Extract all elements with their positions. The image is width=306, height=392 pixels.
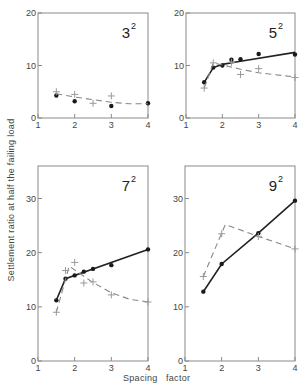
data-point-cross — [53, 309, 60, 316]
panel-3x3: 12340102032 — [26, 8, 151, 130]
panel-label-exponent: 2 — [131, 21, 136, 31]
data-point-cross — [292, 74, 299, 81]
x-axis-title-left: Spacing — [123, 373, 158, 383]
plot-frame — [185, 166, 295, 361]
x-tick-label: 4 — [292, 363, 297, 373]
x-tick-label: 2 — [219, 363, 224, 373]
solid-trend-line — [203, 201, 295, 292]
data-point-cross — [108, 291, 115, 298]
x-axis-title-right: factor — [166, 373, 190, 383]
dashed-trend-line — [56, 94, 148, 104]
panel-9x9: 1234010203092 — [173, 166, 299, 373]
panel-label-exponent: 2 — [278, 174, 283, 184]
data-point-dot — [293, 52, 297, 56]
y-tick-label: 20 — [173, 248, 183, 258]
data-point-cross — [201, 85, 208, 92]
data-point-dot — [220, 63, 224, 67]
y-tick-label: 0 — [179, 113, 184, 123]
dashed-trend-line — [203, 225, 295, 277]
y-axis-title: Settlement ratio at half the failing loa… — [6, 119, 16, 282]
data-point-cross — [228, 59, 235, 66]
x-tick-label: 1 — [183, 120, 188, 130]
data-point-dot — [54, 298, 58, 302]
panel-5x5: 12340102052 — [174, 8, 299, 130]
y-tick-label: 10 — [173, 302, 183, 312]
data-point-cross — [255, 65, 262, 72]
data-point-cross — [200, 273, 207, 280]
y-tick-label: 20 — [26, 248, 36, 258]
panel-7x7: 1234010203072 — [26, 166, 152, 373]
panel-label: 9 — [269, 177, 277, 194]
data-point-cross — [90, 100, 97, 107]
x-tick-label: 3 — [109, 120, 114, 130]
y-tick-label: 10 — [26, 61, 36, 71]
solid-trend-line — [204, 52, 295, 82]
data-point-cross — [62, 267, 69, 274]
x-tick-label: 2 — [220, 120, 225, 130]
y-tick-label: 10 — [174, 61, 184, 71]
plot-frame — [38, 166, 148, 361]
x-tick-label: 4 — [145, 120, 150, 130]
data-point-dot — [72, 99, 76, 103]
panel-label-exponent: 2 — [131, 174, 136, 184]
panel-label-exponent: 2 — [278, 21, 283, 31]
x-tick-label: 1 — [35, 120, 40, 130]
y-tick-label: 0 — [31, 113, 36, 123]
data-point-cross — [108, 92, 115, 99]
y-tick-label: 10 — [26, 302, 36, 312]
data-point-cross — [90, 278, 97, 285]
data-point-cross — [210, 59, 217, 66]
x-tick-label: 2 — [72, 363, 77, 373]
chart-figure: 1234010203212340102052123401020307212340… — [0, 0, 306, 392]
data-point-dot — [109, 104, 113, 108]
data-point-dot — [293, 198, 297, 202]
data-point-dot — [72, 273, 76, 277]
data-point-dot — [82, 269, 86, 273]
x-tick-label: 3 — [256, 120, 261, 130]
data-point-dot — [238, 57, 242, 61]
data-point-cross — [80, 280, 87, 287]
data-point-dot — [91, 267, 95, 271]
data-point-dot — [109, 263, 113, 267]
y-tick-label: 20 — [174, 8, 184, 18]
y-tick-label: 0 — [31, 356, 36, 366]
x-tick-label: 4 — [145, 363, 150, 373]
x-tick-label: 2 — [72, 120, 77, 130]
y-tick-label: 20 — [26, 8, 36, 18]
data-point-cross — [218, 230, 225, 237]
data-point-cross — [255, 233, 262, 240]
x-tick-label: 4 — [292, 120, 297, 130]
y-tick-label: 30 — [173, 194, 183, 204]
data-point-dot — [256, 52, 260, 56]
x-tick-label: 1 — [182, 363, 187, 373]
panel-label: 7 — [122, 177, 130, 194]
data-point-cross — [71, 259, 78, 266]
data-point-dot — [201, 289, 205, 293]
data-point-cross — [237, 71, 244, 78]
dashed-trend-line — [56, 266, 148, 312]
data-point-cross — [145, 298, 152, 305]
solid-trend-line — [56, 249, 148, 300]
data-point-dot — [219, 262, 223, 266]
x-tick-label: 3 — [109, 363, 114, 373]
y-tick-label: 30 — [26, 194, 36, 204]
panel-label: 5 — [269, 24, 277, 41]
data-point-cross — [292, 245, 299, 252]
data-point-dot — [146, 247, 150, 251]
panel-label: 3 — [122, 24, 130, 41]
x-tick-label: 1 — [35, 363, 40, 373]
y-tick-label: 0 — [178, 356, 183, 366]
x-tick-label: 3 — [256, 363, 261, 373]
